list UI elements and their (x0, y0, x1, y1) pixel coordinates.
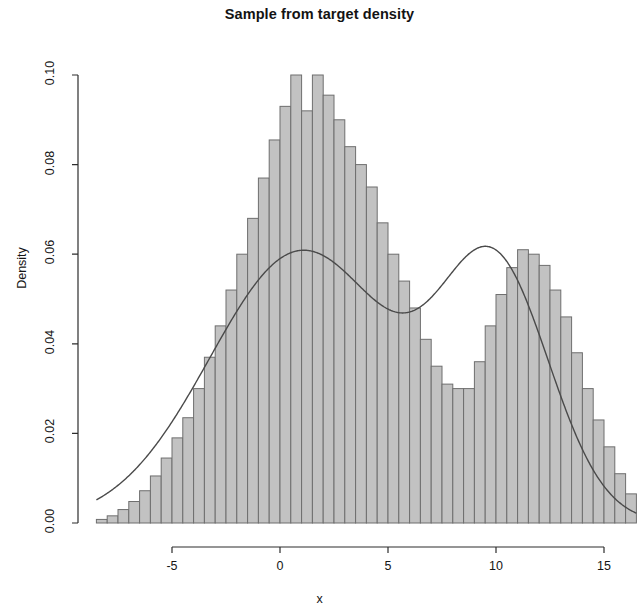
histogram-bar (215, 326, 226, 523)
histogram-bar (388, 254, 399, 523)
histogram-bar (258, 178, 269, 523)
histogram-bars (96, 75, 636, 523)
histogram-bar (442, 384, 453, 523)
histogram-bar (237, 254, 248, 523)
histogram-bar (107, 516, 118, 523)
histogram-bar (172, 438, 183, 523)
plot-canvas (0, 0, 639, 615)
histogram-bar (194, 389, 205, 523)
histogram-bar (345, 147, 356, 523)
histogram-bar (431, 366, 442, 523)
x-axis-line (172, 547, 604, 553)
histogram-bar (582, 389, 593, 523)
histogram-bar (464, 389, 475, 523)
histogram-bar (118, 510, 129, 523)
histogram-bar (280, 106, 291, 523)
histogram-bar (150, 476, 161, 523)
histogram-bar (420, 339, 431, 523)
histogram-bar (323, 95, 334, 523)
histogram-bar (399, 281, 410, 523)
histogram-bar (269, 140, 280, 523)
plot-figure: Sample from target density Density x 0.0… (0, 0, 639, 615)
histogram-bar (496, 295, 507, 523)
histogram-bar (183, 418, 194, 523)
histogram-bar (226, 290, 237, 523)
y-axis-line (72, 75, 78, 523)
histogram-bar (474, 362, 485, 523)
histogram-bar (161, 458, 172, 523)
histogram-bar (302, 111, 313, 523)
histogram-bar (140, 491, 151, 523)
histogram-bar (334, 120, 345, 523)
histogram-bar (96, 519, 107, 523)
histogram-bar (291, 75, 302, 523)
histogram-bar (604, 447, 615, 523)
histogram-bar (528, 254, 539, 523)
histogram-bar (129, 502, 140, 524)
histogram-bar (312, 75, 323, 523)
histogram-bar (377, 223, 388, 523)
histogram-bar (410, 308, 421, 523)
histogram-bar (539, 265, 550, 523)
histogram-bar (356, 165, 367, 523)
histogram-bar (248, 218, 259, 523)
histogram-bar (366, 187, 377, 523)
histogram-bar (507, 268, 518, 523)
histogram-bar (204, 357, 215, 523)
histogram-bar (485, 326, 496, 523)
histogram-bar (453, 389, 464, 523)
histogram-bar (550, 290, 561, 523)
histogram-bar (615, 474, 626, 523)
